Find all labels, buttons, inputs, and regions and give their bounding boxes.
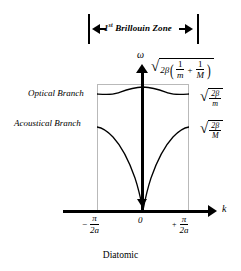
optical-limit-formula: √ 2β m bbox=[200, 88, 223, 109]
x-tick-positive-denominator: 2a bbox=[178, 225, 191, 235]
k-axis-arrow-icon bbox=[208, 205, 217, 217]
radical-sign-icon: √ bbox=[200, 120, 208, 141]
x-tick-negative-denominator: 2a bbox=[88, 225, 101, 235]
brillouin-zone-right-arrow-icon bbox=[185, 24, 193, 34]
formula-term2-denominator: M bbox=[194, 70, 206, 80]
acoustical-branch-label: Acoustical Branch bbox=[14, 118, 81, 128]
brillouin-zone-right-bar bbox=[197, 14, 199, 44]
omega-axis-shaft bbox=[141, 72, 144, 212]
total-frequency-formula: √ 2β ( 1 m + 1 M ) bbox=[151, 58, 214, 81]
optical-limit-numerator: 2β bbox=[209, 90, 221, 99]
x-tick-label-negative: − π 2a bbox=[82, 213, 101, 235]
optical-limit-denominator: m bbox=[210, 99, 220, 108]
x-tick-label-zero: 0 bbox=[138, 215, 143, 225]
brillouin-zone-left-bar bbox=[88, 14, 90, 44]
diatomic-dispersion-figure: 1st Brillouin Zone ω k − π 2a 0 + bbox=[0, 0, 241, 271]
radical-sign-icon: √ bbox=[151, 58, 159, 81]
formula-coefficient: 2β bbox=[160, 66, 169, 75]
formula-term1-denominator: m bbox=[175, 70, 186, 80]
omega-axis-label: ω bbox=[137, 49, 144, 60]
formula-operator: + bbox=[185, 66, 194, 75]
brillouin-zone-label: 1st Brillouin Zone bbox=[104, 22, 172, 33]
optical-branch-label: Optical Branch bbox=[28, 88, 84, 98]
acoustical-branch-curve-right bbox=[143, 127, 189, 210]
acoustical-limit-denominator: M bbox=[210, 131, 221, 140]
x-tick-negative-numerator: π bbox=[90, 214, 99, 224]
acoustical-branch-curve bbox=[97, 127, 143, 210]
k-axis-label: k bbox=[222, 203, 226, 214]
open-paren-icon: ( bbox=[170, 64, 174, 78]
formula-term2-numerator: 1 bbox=[196, 60, 205, 70]
formula-term1-numerator: 1 bbox=[176, 60, 185, 70]
brillouin-zone-label-rest: Brillouin Zone bbox=[113, 23, 172, 33]
close-paren-icon: ) bbox=[207, 64, 211, 78]
omega-axis-arrow-icon bbox=[136, 64, 148, 73]
x-tick-positive-numerator: π bbox=[180, 215, 189, 225]
radical-sign-icon: √ bbox=[200, 88, 208, 109]
figure-caption: Diatomic bbox=[0, 250, 241, 260]
origin-marker-icon bbox=[137, 199, 147, 207]
x-tick-label-positive: + π 2a bbox=[172, 213, 191, 235]
brillouin-zone-right-arrow-shaft bbox=[179, 28, 186, 30]
acoustical-limit-formula: √ 2β M bbox=[200, 120, 223, 141]
acoustical-limit-numerator: 2β bbox=[209, 122, 221, 131]
